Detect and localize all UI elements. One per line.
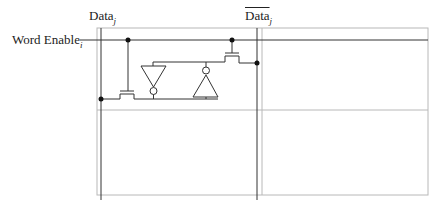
junction-dot — [99, 97, 104, 102]
junction-dot — [255, 61, 260, 66]
junction-dot — [126, 38, 131, 43]
inverter-right — [193, 62, 218, 99]
junction-dot — [230, 38, 235, 43]
data-line-label: Dataj — [89, 8, 116, 26]
inverter-left — [141, 62, 166, 99]
word-enable-label: Word Enablei — [12, 32, 82, 50]
pass-transistor-right — [153, 40, 257, 63]
data-bar-line-label: Dataj — [245, 8, 272, 26]
cell-grid — [97, 28, 428, 195]
